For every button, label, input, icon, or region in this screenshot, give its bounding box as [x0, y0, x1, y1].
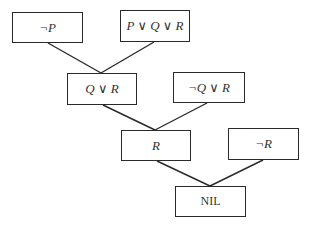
clause-node-r: R	[121, 130, 191, 161]
clause-node-nil: NIL	[175, 186, 246, 217]
clause-node-not-q-or-r: ¬Q ∨ R	[173, 72, 245, 103]
edge-notqr-to-r	[155, 103, 207, 130]
clause-node-p-or-q-or-r: P ∨ Q ∨ R	[120, 10, 190, 42]
clause-node-not-r: ¬R	[228, 128, 299, 160]
edge-qr-to-r	[103, 105, 155, 130]
edge-pqr-to-qr	[101, 42, 154, 73]
clause-node-not-p: ¬P	[12, 12, 83, 43]
resolution-tree-diagram: ¬P P ∨ Q ∨ R Q ∨ R ¬Q ∨ R R ¬R NIL	[0, 0, 312, 229]
clause-node-q-or-r: Q ∨ R	[67, 73, 137, 105]
edge-notr-to-nil	[210, 160, 263, 186]
edge-r-to-nil	[157, 161, 210, 186]
edge-notp-to-qr	[48, 43, 101, 73]
